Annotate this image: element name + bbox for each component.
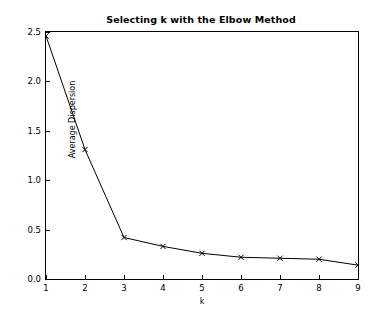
y-tick-label: 2.5	[27, 27, 41, 37]
x-tick-label: 5	[199, 283, 204, 293]
x-tick-label: 4	[160, 283, 165, 293]
chart-title: Selecting k with the Elbow Method	[45, 14, 357, 25]
y-tick-label: 2.0	[27, 76, 41, 86]
y-tick-label: 1.0	[27, 175, 41, 185]
y-tick-mark	[46, 279, 50, 280]
series-plot	[46, 32, 358, 279]
x-tick-label: 6	[238, 283, 243, 293]
x-tick-label: 7	[277, 283, 282, 293]
x-tick-label: 1	[43, 283, 48, 293]
x-tick-label: 3	[121, 283, 126, 293]
y-tick-label: 1.5	[27, 126, 41, 136]
plot-area: Average Dispersion k 0.00.51.01.52.02.5 …	[45, 31, 359, 280]
x-tick-label: 8	[316, 283, 321, 293]
series-line-average-dispersion	[46, 36, 358, 265]
x-tick-label: 2	[82, 283, 87, 293]
series-markers	[46, 33, 358, 267]
y-tick-label: 0.5	[27, 225, 41, 235]
chart-figure: Selecting k with the Elbow Method Averag…	[0, 0, 371, 313]
x-tick-mark	[358, 275, 359, 279]
x-tick-label: 9	[355, 283, 360, 293]
x-axis-label: k	[46, 297, 358, 306]
y-tick-label: 0.0	[27, 274, 41, 284]
